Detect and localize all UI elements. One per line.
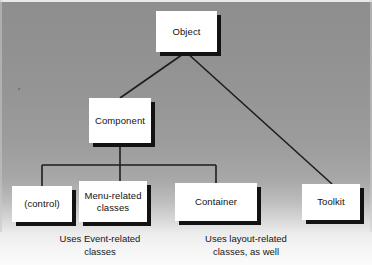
- node-toolkit-label: Toolkit: [314, 196, 348, 208]
- node-component-label: Component: [92, 115, 148, 127]
- node-object[interactable]: Object: [156, 11, 217, 52]
- node-component[interactable]: Component: [89, 98, 151, 143]
- scan-artifact-speck: [18, 88, 20, 90]
- node-toolkit[interactable]: Toolkit: [302, 184, 360, 220]
- node-menu-related-classes[interactable]: Menu-related classes: [79, 181, 147, 222]
- node-menu-related-classes-label: Menu-related classes: [81, 190, 144, 214]
- node-object-label: Object: [169, 26, 203, 38]
- caption-layout-related: Uses layout-related classes, as well: [172, 232, 320, 258]
- node-container-label: Container: [192, 196, 240, 208]
- edge-object-component: [120, 52, 186, 98]
- node-container[interactable]: Container: [175, 183, 257, 221]
- node-control[interactable]: (control): [12, 186, 72, 222]
- diagram-canvas: Object Component (control) Menu-related …: [0, 0, 372, 265]
- caption-event-related: Uses Event-related classes: [26, 232, 174, 258]
- node-control-label: (control): [21, 198, 63, 210]
